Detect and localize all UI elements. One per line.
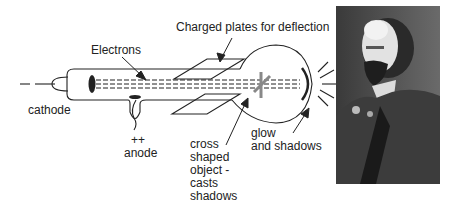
- figure: Charged plates for deflection Electrons …: [0, 0, 461, 206]
- screen-glow: [302, 68, 308, 100]
- label-cathode: cathode: [28, 104, 71, 117]
- cathode-disk: [89, 75, 96, 93]
- label-charged-plates: Charged plates for deflection: [176, 21, 329, 34]
- cross-arrow: [226, 104, 245, 145]
- label-electrons: Electrons: [91, 44, 141, 57]
- cross-object: [254, 72, 270, 98]
- label-cross-5: shadows: [190, 190, 237, 203]
- electron-beam: [96, 80, 300, 88]
- label-glow-2: and shadows: [251, 140, 322, 153]
- label-anode: anode: [124, 147, 157, 160]
- anode-disk: [129, 95, 141, 99]
- portrait-photo: [336, 6, 440, 184]
- bottom-plate: [172, 94, 240, 114]
